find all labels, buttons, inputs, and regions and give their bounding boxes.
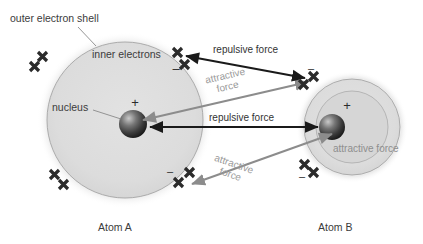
electron-a-bottom-minus-sign: – bbox=[167, 165, 174, 177]
inner-electrons-label: inner electrons bbox=[92, 48, 154, 60]
electron-b-top-minus-sign: – bbox=[308, 62, 315, 74]
electron-pair-a-upper-left bbox=[30, 52, 47, 71]
repulsive-force-middle-label: repulsive force bbox=[209, 112, 274, 124]
nucleus-a-plus-sign: + bbox=[131, 95, 139, 110]
nucleus-label: nucleus bbox=[52, 101, 88, 113]
atom-a-label: Atom A bbox=[98, 221, 132, 233]
electron-b-bottom-minus-sign: – bbox=[299, 170, 306, 182]
nucleus-b-plus-sign: + bbox=[343, 98, 351, 113]
outer-electron-shell-label: outer electron shell bbox=[10, 12, 99, 24]
diagram-canvas: + + – – – – outer electron shell inner e… bbox=[0, 0, 423, 244]
attractive-force-atom-b-label: attractive force bbox=[333, 143, 399, 155]
atom-b-nucleus bbox=[319, 114, 345, 140]
atom-a-nucleus bbox=[119, 110, 147, 138]
atom-b-label: Atom B bbox=[318, 221, 352, 233]
repulsive-force-top-label: repulsive force bbox=[213, 44, 278, 56]
electron-a-top-minus-sign: – bbox=[172, 61, 180, 76]
